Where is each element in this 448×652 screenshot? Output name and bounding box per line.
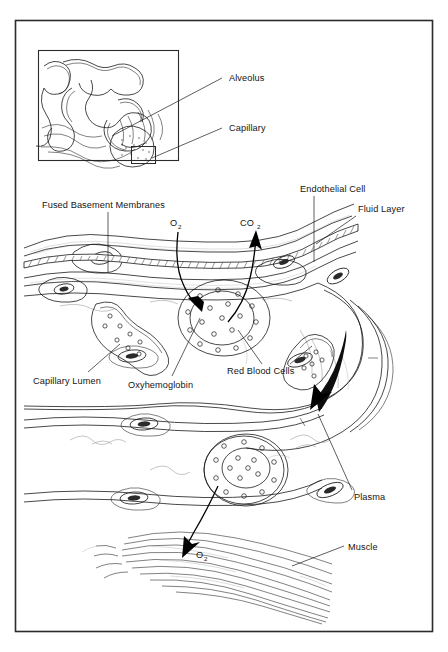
label-carbon-dioxide-out: CO 2 <box>240 218 261 230</box>
label-oxygen-in: O 2 <box>170 218 182 230</box>
label-plasma: Plasma <box>354 492 386 502</box>
red-blood-cell-elongated-left <box>91 302 168 376</box>
hemoglobin-dots-lower <box>214 440 277 499</box>
muscle-fibres <box>82 532 332 624</box>
oxygen-in-base: O <box>170 218 177 228</box>
label-endothelial-cell: Endothelial Cell <box>300 184 365 194</box>
label-fused-basement-membranes: Fused Basement Membranes <box>42 200 165 210</box>
gas-exchange-figure: Alveolus Capillary <box>0 0 448 652</box>
arrow-blood-flow <box>310 330 346 412</box>
endothelial-nucleus-upper-right <box>325 265 352 287</box>
red-blood-cell-central <box>178 280 270 356</box>
label-oxyhemoglobin: Oxyhemoglobin <box>128 380 193 390</box>
figure-border <box>16 21 433 632</box>
label-oxygen-to-muscle: O 2 <box>196 550 208 562</box>
diagram-canvas: Alveolus Capillary <box>0 0 448 652</box>
leader-oxyhemoglobin <box>172 318 200 376</box>
carbon-dioxide-subscript: 2 <box>257 223 261 230</box>
red-blood-cell-lower <box>204 434 288 506</box>
oxygen-in-subscript: 2 <box>178 223 182 230</box>
leader-alveolus <box>112 78 222 136</box>
alveolar-wall-assembly <box>24 198 410 302</box>
inset-panel <box>36 51 179 169</box>
label-capillary: Capillary <box>229 123 266 133</box>
arrow-oxygen-in <box>177 232 204 312</box>
label-capillary-lumen: Capillary Lumen <box>33 376 101 386</box>
label-red-blood-cells: Red Blood Cells <box>227 366 295 376</box>
label-muscle: Muscle <box>348 542 378 552</box>
alveolar-sac-outline <box>36 59 151 151</box>
leader-capillary-lumen <box>88 344 120 372</box>
endothelial-nucleus-lower-left <box>39 277 88 302</box>
leader-muscle <box>292 546 344 566</box>
oxygen-muscle-subscript: 2 <box>204 555 208 562</box>
label-fluid-layer: Fluid Layer <box>358 204 405 214</box>
carbon-dioxide-base: CO <box>240 218 254 228</box>
leader-red-blood-cells-1 <box>238 330 262 364</box>
label-alveolus: Alveolus <box>229 73 265 83</box>
capillary-lumen-body <box>24 283 393 506</box>
oxygen-muscle-base: O <box>196 550 203 560</box>
fluid-layer-stipple <box>30 215 350 254</box>
